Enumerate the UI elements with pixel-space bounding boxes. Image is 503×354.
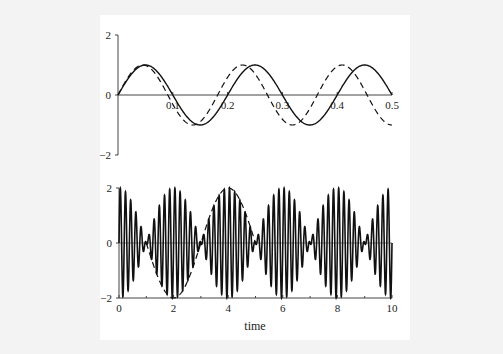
x-tick-label: 2	[171, 302, 177, 314]
y-tick-label: 0	[107, 237, 113, 249]
x-tick-label: 6	[280, 302, 286, 314]
y-tick-label: 0	[106, 89, 112, 101]
plot-background	[100, 15, 410, 340]
x-tick-label: 0	[116, 302, 122, 314]
bottom-x-axis-title: time	[244, 319, 265, 333]
x-tick-label: 10	[387, 302, 399, 314]
figure: 20−2 0.10.20.30.40.5 20−2 0246810 time	[0, 0, 503, 354]
x-tick-label: 8	[335, 302, 341, 314]
y-tick-label: −2	[100, 292, 112, 304]
x-tick-label: 0.4	[330, 99, 344, 111]
y-tick-label: −2	[99, 149, 111, 161]
y-tick-label: 2	[106, 29, 112, 41]
x-tick-label: 0.5	[385, 99, 399, 111]
x-tick-label: 0.2	[221, 99, 235, 111]
x-tick-label: 4	[225, 302, 231, 314]
y-tick-label: 2	[107, 182, 113, 194]
